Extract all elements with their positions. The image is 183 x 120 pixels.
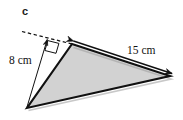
part-label-c: c (22, 6, 28, 17)
dashed-extension-line (22, 32, 74, 45)
geometry-figure: c 8 cm 15 cm (0, 0, 183, 120)
side-dimension-label: 15 cm (127, 45, 155, 57)
right-angle-marker (45, 41, 59, 54)
height-dimension-label: 8 cm (9, 55, 32, 67)
